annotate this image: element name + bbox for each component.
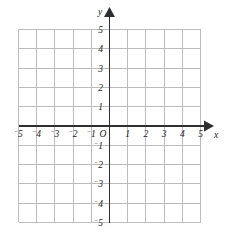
x-tick-labels-negative: ⁻5 ⁻4 ⁻3 ⁻2 ⁻1: [14, 128, 96, 139]
arrow-right-icon: [204, 121, 214, 132]
x-tick-2: 2: [144, 129, 149, 139]
x-axis-name-label: x: [213, 130, 219, 140]
coordinate-grid-figure: x y O ⁻5 ⁻4 ⁻3 ⁻2 ⁻1 1 2 3 4 5 5 4 3 2 1: [0, 0, 227, 239]
y-tick-4: 4: [98, 44, 103, 54]
x-tick--3: ⁻3: [51, 128, 60, 139]
y-tick--2: ⁻2: [94, 159, 103, 170]
x-tick-1: 1: [125, 129, 130, 139]
y-axis: [104, 7, 115, 223]
origin-label: O: [100, 129, 107, 139]
x-tick--4: ⁻4: [32, 128, 41, 139]
arrow-up-icon: [104, 7, 115, 17]
y-tick--4: ⁻4: [94, 198, 103, 209]
x-tick-labels-positive: 1 2 3 4 5: [125, 129, 203, 139]
y-axis-name-label: y: [97, 7, 103, 17]
x-tick-3: 3: [161, 129, 167, 139]
y-tick--1: ⁻1: [94, 140, 103, 151]
y-tick-labels-positive: 5 4 3 2 1: [97, 25, 103, 112]
y-tick-labels-negative: ⁻1 ⁻2 ⁻3 ⁻4 ⁻5: [94, 140, 103, 228]
y-tick-2: 2: [98, 83, 103, 93]
x-tick-4: 4: [180, 129, 185, 139]
y-tick--5: ⁻5: [94, 217, 103, 228]
x-tick--1: ⁻1: [87, 128, 96, 139]
x-tick--2: ⁻2: [69, 128, 78, 139]
y-tick-3: 3: [97, 64, 103, 74]
y-tick-1: 1: [98, 102, 103, 112]
coordinate-plane-svg: x y O ⁻5 ⁻4 ⁻3 ⁻2 ⁻1 1 2 3 4 5 5 4 3 2 1: [0, 0, 227, 239]
y-tick--3: ⁻3: [94, 178, 103, 189]
y-tick-5: 5: [98, 25, 103, 35]
x-tick--5: ⁻5: [14, 128, 23, 139]
x-tick-5: 5: [198, 129, 203, 139]
